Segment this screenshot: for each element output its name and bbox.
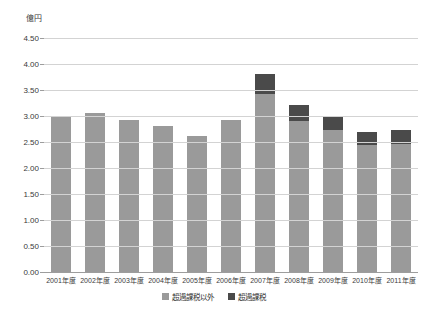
y-tick-mark — [40, 38, 44, 39]
gridline — [44, 90, 418, 91]
bar-stack[interactable] — [357, 132, 377, 272]
y-tick-label: 4.00 — [23, 60, 39, 69]
x-tick-label: 2003年度 — [112, 275, 146, 289]
x-tick-label: 2011年度 — [384, 275, 418, 289]
y-tick-mark — [40, 246, 44, 247]
y-tick-label: 3.00 — [23, 112, 39, 121]
bar-segment-secondary — [255, 74, 275, 94]
y-tick-mark — [40, 194, 44, 195]
x-tick-label: 2002年度 — [78, 275, 112, 289]
bar-group — [350, 38, 384, 272]
bar-segment-primary — [187, 136, 207, 272]
legend-item[interactable]: 超過課税 — [228, 291, 266, 302]
x-tick-label: 2005年度 — [180, 275, 214, 289]
legend-label: 超過課税 — [238, 291, 266, 302]
bar-group — [112, 38, 146, 272]
bar-stack[interactable] — [391, 130, 411, 272]
bar-group — [384, 38, 418, 272]
bar-chart: 億円 4.504.003.503.002.502.001.501.000.500… — [0, 0, 428, 311]
y-tick-mark — [40, 142, 44, 143]
y-tick-label: 1.00 — [23, 216, 39, 225]
y-tick-mark — [40, 90, 44, 91]
bar-group — [248, 38, 282, 272]
y-tick-label: 2.50 — [23, 138, 39, 147]
x-tick-label: 2007年度 — [248, 275, 282, 289]
x-tick-label: 2010年度 — [350, 275, 384, 289]
y-tick-mark — [40, 272, 44, 273]
bar-segment-primary — [391, 144, 411, 272]
gridline — [44, 168, 418, 169]
bar-group — [316, 38, 350, 272]
y-tick-label: 0.00 — [23, 268, 39, 277]
gridline — [44, 38, 418, 39]
legend-swatch-icon — [162, 293, 169, 300]
y-tick-mark — [40, 64, 44, 65]
bar-group — [44, 38, 78, 272]
bar-segment-primary — [289, 121, 309, 272]
bar-segment-primary — [85, 113, 105, 272]
x-axis-labels: 2001年度2002年度2003年度2004年度2005年度2006年度2007… — [44, 275, 418, 289]
chart-legend: 超過課税以外超過課税 — [0, 291, 428, 302]
bar-segment-secondary — [289, 105, 309, 122]
bar-segment-primary — [323, 130, 343, 272]
bar-segment-primary — [357, 145, 377, 272]
x-tick-label: 2008年度 — [282, 275, 316, 289]
bar-series-container — [44, 38, 418, 272]
legend-swatch-icon — [228, 293, 235, 300]
bar-segment-secondary — [323, 117, 343, 130]
bar-group — [180, 38, 214, 272]
axis-baseline — [44, 272, 418, 273]
x-tick-label: 2006年度 — [214, 275, 248, 289]
y-axis-unit-label: 億円 — [26, 12, 42, 23]
gridline — [44, 142, 418, 143]
x-tick-label: 2004年度 — [146, 275, 180, 289]
y-tick-mark — [40, 168, 44, 169]
gridline — [44, 246, 418, 247]
legend-label: 超過課税以外 — [172, 291, 214, 302]
y-tick-label: 3.50 — [23, 86, 39, 95]
bar-segment-primary — [153, 126, 173, 272]
y-tick-label: 4.50 — [23, 34, 39, 43]
y-tick-label: 1.50 — [23, 190, 39, 199]
bar-group — [282, 38, 316, 272]
bar-stack[interactable] — [153, 126, 173, 272]
x-tick-label: 2009年度 — [316, 275, 350, 289]
gridline — [44, 194, 418, 195]
x-tick-label: 2001年度 — [44, 275, 78, 289]
legend-item[interactable]: 超過課税以外 — [162, 291, 214, 302]
bar-group — [146, 38, 180, 272]
y-tick-label: 2.00 — [23, 164, 39, 173]
bar-stack[interactable] — [85, 113, 105, 272]
y-tick-label: 0.50 — [23, 242, 39, 251]
y-tick-mark — [40, 220, 44, 221]
plot-area: 4.504.003.503.002.502.001.501.000.500.00 — [44, 38, 418, 272]
gridline — [44, 116, 418, 117]
bar-group — [214, 38, 248, 272]
bar-group — [78, 38, 112, 272]
bar-stack[interactable] — [187, 136, 207, 272]
gridline — [44, 64, 418, 65]
y-tick-mark — [40, 116, 44, 117]
gridline — [44, 220, 418, 221]
bar-stack[interactable] — [255, 74, 275, 272]
